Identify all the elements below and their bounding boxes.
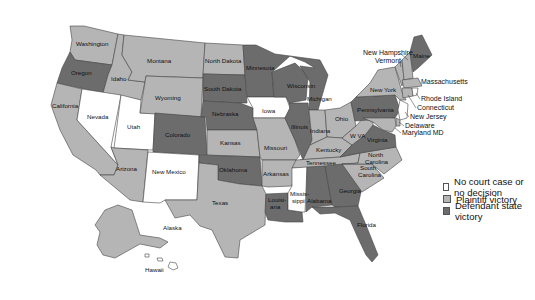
label-new-jersey: New Jersey <box>410 113 447 121</box>
legend: No court case or no decision Plaintiff v… <box>443 181 535 217</box>
state-connecticut <box>402 88 413 98</box>
label-florida: Florida <box>357 221 376 228</box>
leader-connecticut <box>408 95 416 108</box>
state-massachusetts <box>402 78 422 88</box>
legend-item-defendant: Defendant state victory <box>443 205 535 217</box>
label-alabama: Alabama <box>307 197 332 204</box>
label-missouri: Missouri <box>264 144 287 151</box>
label-montana: Montana <box>147 57 172 64</box>
label-washington: Washington <box>76 40 109 47</box>
label-virginia: Virginia <box>367 136 388 143</box>
label-vermont: Vermont <box>375 57 401 64</box>
label-texas: Texas <box>212 199 228 206</box>
label-south-dakota: South Dakota <box>204 85 242 92</box>
label-indiana: Indiana <box>310 127 331 134</box>
legend-item-none: No court case or no decision <box>443 181 535 193</box>
label-iowa: Iowa <box>262 107 276 114</box>
label-arizona: Arizona <box>116 165 138 172</box>
state-florida <box>312 206 378 262</box>
label-oregon: Oregon <box>71 69 92 76</box>
legend-label-defendant: Defendant state victory <box>455 200 535 222</box>
state-hawaii-2 <box>157 258 163 261</box>
label-alaska: Alaska <box>163 224 182 231</box>
label-ohio: Ohio <box>335 115 349 122</box>
leader-maryland <box>395 128 401 133</box>
state-new-jersey <box>398 100 408 120</box>
label-utah: Utah <box>127 123 141 130</box>
state-hawaii <box>168 262 178 270</box>
label-maine: Maine <box>413 52 430 59</box>
label-arkansas: Arkansas <box>263 170 289 177</box>
us-map: Washington Oregon California Idaho Nevad… <box>0 0 535 300</box>
label-new-mexico: New Mexico <box>152 168 186 175</box>
state-hawaii-3 <box>145 254 149 257</box>
label-california: California <box>52 102 79 109</box>
label-colorado: Colorado <box>165 131 191 138</box>
label-north-dakota: North Dakota <box>205 57 242 64</box>
label-west-virginia: W VA <box>350 132 366 139</box>
legend-swatch-none <box>443 183 449 191</box>
legend-swatch-plaintiff <box>443 195 451 203</box>
state-new-mexico <box>143 152 199 203</box>
label-hawaii: Hawaii <box>145 266 164 273</box>
label-kansas: Kansas <box>220 139 241 146</box>
label-wisconsin: Wisconsin <box>287 82 316 89</box>
label-illinois: Illinois <box>291 123 308 130</box>
label-oklahoma: Oklahoma <box>219 166 248 173</box>
leader-rhode-island <box>416 93 420 99</box>
label-pennsylvania: Pennsylvania <box>357 106 394 113</box>
label-massachusetts: Massachusetts <box>421 78 468 85</box>
label-rhode-island: Rhode Island <box>421 95 462 102</box>
label-kentucky: Kentucky <box>316 146 342 153</box>
label-idaho: Idaho <box>111 75 127 82</box>
label-nevada: Nevada <box>87 113 109 120</box>
label-minnesota: Minnesota <box>246 64 275 71</box>
legend-swatch-defendant <box>443 207 450 215</box>
label-maryland: Maryland MD <box>402 129 444 137</box>
label-nebraska: Nebraska <box>212 110 239 117</box>
label-tennessee: Tennessee <box>306 159 336 166</box>
state-alaska <box>95 205 168 258</box>
label-delaware: Delaware <box>405 122 435 129</box>
label-georgia: Georgia <box>339 187 362 194</box>
label-michigan: Michigan <box>307 95 332 102</box>
label-new-hampshire: New Hampshire <box>363 49 413 57</box>
label-new-york: New York <box>370 86 397 93</box>
label-connecticut: Connecticut <box>417 104 454 111</box>
label-wyoming: Wyoming <box>155 94 181 101</box>
